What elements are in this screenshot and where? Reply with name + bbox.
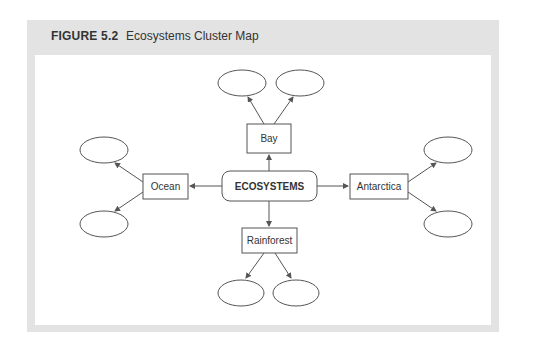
branch-label-antarctica: Antarctica: [357, 181, 402, 192]
center-node: ECOSYSTEMS: [222, 171, 317, 201]
edge-bay-leaf-1: [248, 97, 264, 124]
branch-label-bay: Bay: [260, 133, 277, 144]
leaf-ellipse-antarctica-2: [424, 211, 472, 237]
branch-label-ocean: Ocean: [151, 181, 180, 192]
leaf-ellipse-antarctica-1: [424, 137, 472, 163]
leaf-ellipse-ocean-2: [80, 211, 128, 237]
branch-node-rainforest: Rainforest: [242, 228, 297, 253]
branch-node-bay: Bay: [247, 124, 291, 153]
leaf-ellipse-bay-1: [218, 70, 266, 96]
edge-antarctica-leaf-1: [408, 163, 436, 182]
edge-ocean-leaf-2: [115, 192, 143, 211]
edge-rainforest-leaf-2: [275, 253, 291, 278]
leaf-ellipse-rainforest-2: [273, 280, 319, 306]
cluster-map: ECOSYSTEMS Bay Ocean Antarctica Rainfore…: [0, 0, 551, 347]
branch-label-rainforest: Rainforest: [247, 235, 293, 246]
edge-rainforest-leaf-1: [246, 253, 264, 278]
leaf-ellipse-rainforest-1: [218, 280, 264, 306]
leaf-ellipse-ocean-1: [80, 137, 128, 163]
edge-antarctica-leaf-2: [408, 192, 436, 211]
branch-node-ocean: Ocean: [143, 174, 188, 199]
branch-node-antarctica: Antarctica: [350, 174, 408, 199]
center-label: ECOSYSTEMS: [235, 181, 305, 192]
edge-ocean-leaf-1: [115, 163, 143, 182]
edge-bay-leaf-2: [274, 97, 293, 124]
leaf-ellipse-bay-2: [276, 70, 324, 96]
